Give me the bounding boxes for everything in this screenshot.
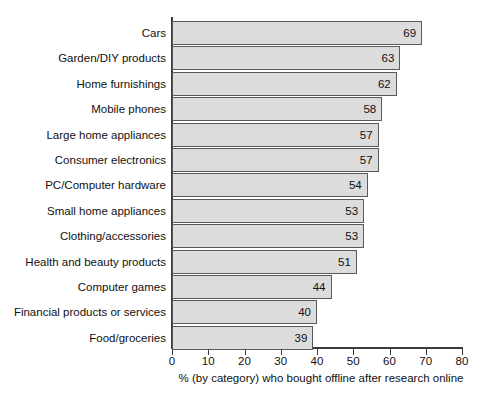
- bar-row: Home furnishings62: [172, 72, 462, 96]
- x-axis-title: % (by category) who bought offline after…: [0, 372, 495, 384]
- bar-value-label: 53: [172, 224, 364, 248]
- x-tick-label: 30: [261, 355, 301, 367]
- x-tick-label: 40: [297, 355, 337, 367]
- category-label: Large home appliances: [46, 123, 166, 147]
- bar-value-label: 51: [172, 250, 357, 274]
- category-label: Health and beauty products: [25, 250, 166, 274]
- bar-value-label: 54: [172, 173, 368, 197]
- bar-value-label: 58: [172, 97, 382, 121]
- bar-row: PC/Computer hardware54: [172, 173, 462, 197]
- category-label: Food/groceries: [89, 326, 166, 350]
- bar-row: Mobile phones58: [172, 97, 462, 121]
- category-label: Garden/DIY products: [58, 46, 166, 70]
- bar-value-label: 57: [172, 148, 379, 172]
- category-label: Financial products or services: [14, 300, 166, 324]
- category-label: Cars: [142, 21, 166, 45]
- category-label: Clothing/accessories: [60, 224, 166, 248]
- bar-row: Large home appliances57: [172, 123, 462, 147]
- bar-value-label: 62: [172, 72, 397, 96]
- bar-value-label: 69: [172, 21, 422, 45]
- bar-row: Food/groceries39: [172, 326, 462, 350]
- bar-row: Cars69: [172, 21, 462, 45]
- category-label: Consumer electronics: [55, 148, 166, 172]
- category-label: Computer games: [78, 275, 166, 299]
- bar-row: Consumer electronics57: [172, 148, 462, 172]
- bar-row: Clothing/accessories53: [172, 224, 462, 248]
- bar-value-label: 53: [172, 199, 364, 223]
- x-tick-label: 70: [406, 355, 446, 367]
- x-axis-title-text: % (by category) who bought offline after…: [179, 372, 464, 384]
- bar-value-label: 40: [172, 300, 317, 324]
- bar-value-label: 57: [172, 123, 379, 147]
- bar-value-label: 39: [172, 326, 313, 350]
- x-tick-label: 80: [442, 355, 482, 367]
- x-tick-label: 20: [225, 355, 265, 367]
- x-tick-label: 60: [370, 355, 410, 367]
- x-tick-label: 0: [152, 355, 192, 367]
- bar-row: Small home appliances53: [172, 199, 462, 223]
- bar-value-label: 63: [172, 46, 400, 70]
- category-label: PC/Computer hardware: [45, 173, 166, 197]
- category-label: Home furnishings: [77, 72, 166, 96]
- bar-row: Computer games44: [172, 275, 462, 299]
- bar-row: Garden/DIY products63: [172, 46, 462, 70]
- bar-chart: Cars69Garden/DIY products63Home furnishi…: [0, 0, 495, 397]
- category-label: Mobile phones: [91, 97, 166, 121]
- bar-row: Financial products or services40: [172, 300, 462, 324]
- bar-value-label: 44: [172, 275, 332, 299]
- bar-row: Health and beauty products51: [172, 250, 462, 274]
- category-label: Small home appliances: [47, 199, 166, 223]
- x-tick-label: 50: [333, 355, 373, 367]
- x-tick-label: 10: [188, 355, 228, 367]
- plot-area: Cars69Garden/DIY products63Home furnishi…: [172, 18, 462, 348]
